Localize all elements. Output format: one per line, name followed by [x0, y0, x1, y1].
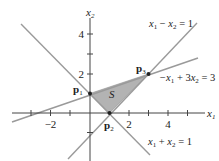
- x1-axis-label: x1: [206, 107, 215, 121]
- y-tick-label-4: 4: [79, 28, 85, 40]
- y-tick-label-2: 2: [79, 68, 85, 80]
- point-p1: [88, 92, 92, 96]
- x-tick-label-4: 4: [165, 118, 171, 130]
- label-p3: p3: [136, 62, 146, 76]
- x-tick-label-neg2: −2: [45, 118, 57, 130]
- x-tick-label-2: 2: [126, 118, 132, 130]
- equation-x1-plus-x2-eq-1: x1 + x2 = 1: [147, 136, 192, 149]
- point-p2: [108, 111, 112, 115]
- x2-axis-label: x2: [85, 6, 95, 20]
- region-label-s: S: [109, 88, 115, 100]
- point-p3: [147, 72, 151, 76]
- region-s: [90, 74, 149, 113]
- equation-neg-x1-plus-3x2-eq-3: −x1 + 3x2 = 3: [159, 72, 215, 85]
- equation-x1-minus-x2-eq-1: x1 − x2 = 1: [148, 18, 193, 31]
- label-p2: p2: [104, 119, 114, 133]
- feasible-region-diagram: −2 2 4 2 4 x1 x2 p1 p2 p3 S x1 − x2 = 1 …: [0, 0, 219, 161]
- line-neg-x1-plus-3x2-eq-3: [12, 58, 198, 122]
